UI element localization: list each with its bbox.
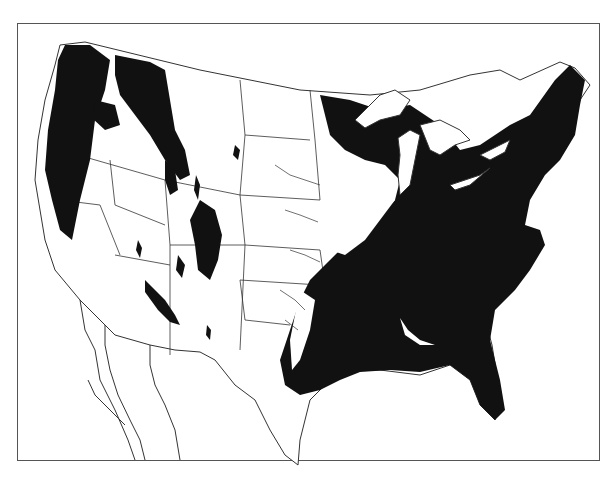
- us-forest-map: [0, 0, 613, 485]
